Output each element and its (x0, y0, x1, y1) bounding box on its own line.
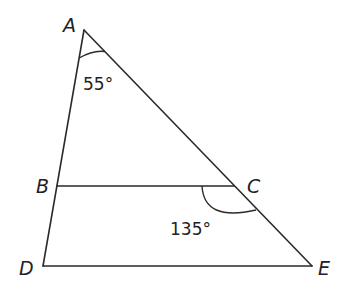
vertex-label-E: E (318, 257, 330, 279)
vertex-label-C: C (247, 175, 261, 197)
segment-AD (43, 30, 84, 266)
angle-label-C: 135° (170, 219, 211, 239)
geometry-diagram: A B C D E 55° 135° (0, 0, 352, 306)
vertex-label-D: D (19, 257, 34, 279)
angle-label-A: 55° (83, 74, 113, 94)
vertex-label-B: B (36, 175, 49, 197)
angle-arc-A (79, 51, 105, 58)
vertex-label-A: A (61, 14, 76, 36)
